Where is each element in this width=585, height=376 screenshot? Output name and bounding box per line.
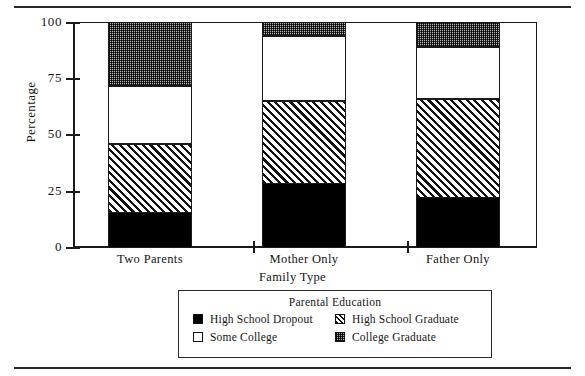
segment-high-school-dropout[interactable]: [416, 198, 500, 248]
checkered-square-icon: [335, 332, 345, 342]
segment-high-school-graduate[interactable]: [416, 99, 500, 198]
x-axis-title: Family Type: [0, 270, 585, 285]
legend-entry-high-school-dropout[interactable]: High School Dropout: [193, 313, 335, 325]
hatched-square-icon: [335, 314, 345, 324]
legend-label: High School Graduate: [352, 313, 459, 325]
y-tick-label-0: 0: [22, 240, 62, 253]
solid-black-square-icon: [193, 314, 203, 324]
segment-high-school-dropout[interactable]: [108, 213, 192, 247]
bar-father-only[interactable]: [416, 22, 500, 247]
y-tick-label-100: 100: [22, 15, 62, 28]
segment-high-school-dropout[interactable]: [262, 184, 346, 247]
y-tick-50: [66, 134, 80, 136]
figure-bottom-rule: [14, 367, 571, 369]
x-tick-label-father-only: Father Only: [373, 252, 543, 267]
legend-entry-college-graduate[interactable]: College Graduate: [335, 331, 477, 343]
legend-entry-high-school-graduate[interactable]: High School Graduate: [335, 313, 477, 325]
figure: 100 75 50 25 0 Percentage Two Parents: [0, 0, 585, 376]
segment-some-college[interactable]: [416, 47, 500, 99]
segment-some-college[interactable]: [262, 36, 346, 101]
y-axis-title: Percentage: [23, 57, 39, 167]
x-tick-label-two-parents: Two Parents: [65, 252, 235, 267]
legend-title: Parental Education: [179, 296, 491, 308]
segment-college-graduate[interactable]: [416, 22, 500, 47]
legend-label: High School Dropout: [210, 313, 313, 325]
y-tick-0: [66, 247, 80, 249]
segment-high-school-graduate[interactable]: [262, 101, 346, 184]
bar-mother-only[interactable]: [262, 22, 346, 247]
y-tick-25: [66, 191, 80, 193]
bar-two-parents[interactable]: [108, 22, 192, 247]
legend-items: High School Dropout High School Graduate…: [179, 313, 491, 343]
segment-college-graduate[interactable]: [262, 22, 346, 36]
figure-top-rule: [14, 6, 571, 8]
segment-high-school-graduate[interactable]: [108, 144, 192, 214]
segment-college-graduate[interactable]: [108, 22, 192, 86]
y-tick-label-25: 25: [22, 184, 62, 197]
legend-label: Some College: [210, 331, 277, 343]
y-tick-75: [66, 78, 80, 80]
y-tick-100: [66, 22, 80, 24]
legend-entry-some-college[interactable]: Some College: [193, 331, 335, 343]
open-white-square-icon: [193, 332, 203, 342]
legend: Parental Education High School Dropout H…: [178, 290, 492, 358]
x-tick-label-mother-only: Mother Only: [219, 252, 389, 267]
legend-label: College Graduate: [352, 331, 436, 343]
segment-some-college[interactable]: [108, 86, 192, 143]
